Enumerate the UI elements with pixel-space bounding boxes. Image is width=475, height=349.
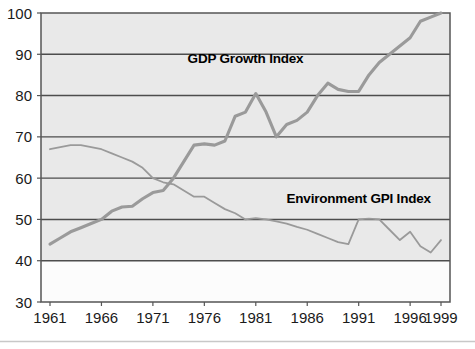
chart-container: 10090807060504030 1961196619711976198119…	[0, 0, 475, 349]
x-axis-tick-labels: 196119661971197619811986199119961999	[33, 309, 457, 326]
x-tick-label-1976: 1976	[188, 309, 221, 326]
y-tick-label-100: 100	[7, 5, 32, 22]
y-tick-label-60: 60	[15, 170, 32, 187]
x-tick-label-1991: 1991	[342, 309, 375, 326]
y-tick-label-40: 40	[15, 252, 32, 269]
y-tick-label-50: 50	[15, 211, 32, 228]
x-tick-label-1961: 1961	[33, 309, 66, 326]
x-tick-label-1981: 1981	[239, 309, 272, 326]
x-tick-label-1986: 1986	[291, 309, 324, 326]
y-tick-label-70: 70	[15, 128, 32, 145]
x-tick-label-1966: 1966	[85, 309, 118, 326]
x-tick-label-1996: 1996	[393, 309, 426, 326]
plain-band	[41, 261, 450, 302]
y-tick-label-90: 90	[15, 46, 32, 63]
series-label-gdp-growth-index: GDP Growth Index	[188, 51, 305, 66]
x-tick-label-1999: 1999	[424, 309, 457, 326]
line-chart: 10090807060504030 1961196619711976198119…	[0, 0, 475, 349]
x-tick-label-1971: 1971	[136, 309, 169, 326]
y-tick-label-30: 30	[15, 294, 32, 311]
series-label-environment-gpi-index: Environment GPI Index	[287, 191, 432, 206]
y-tick-label-80: 80	[15, 87, 32, 104]
